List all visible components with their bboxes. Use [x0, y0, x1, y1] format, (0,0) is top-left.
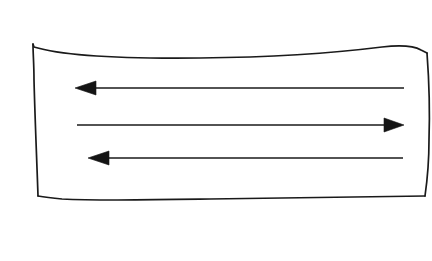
diagram-canvas: [0, 0, 432, 261]
arrow-bottom: [88, 151, 403, 165]
figure-root: [0, 0, 432, 261]
rectangle-top-edge: [33, 44, 427, 58]
rectangle-right-edge: [425, 53, 429, 196]
rectangle-bottom-edge: [38, 196, 425, 200]
arrow-bottom-head-icon: [88, 151, 109, 165]
rectangle-left-edge: [33, 44, 38, 196]
outer-rectangle: [33, 44, 429, 200]
arrow-top-head-icon: [75, 81, 96, 95]
arrow-middle: [77, 118, 404, 132]
arrow-middle-head-icon: [384, 118, 404, 132]
arrow-top: [75, 81, 404, 95]
